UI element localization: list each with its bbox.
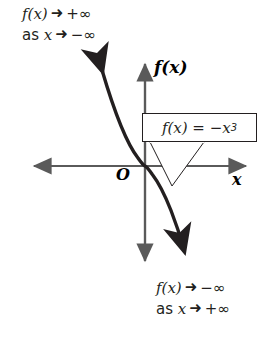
equation-exponent: 3 [231,122,237,133]
figure-canvas: f(x)➜+∞ as x➜−∞ f(x) = −x3 [0,0,276,341]
equation-text: f(x) = −x [162,119,231,137]
callout-leader-layer [0,0,276,341]
callout-pointer [150,142,204,186]
equation-callout: f(x) = −x3 [142,113,257,142]
